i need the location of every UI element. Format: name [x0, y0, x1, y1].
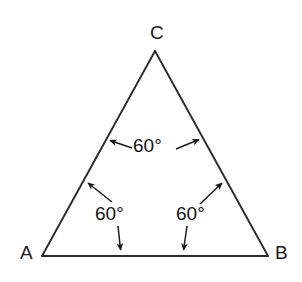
- arrow-to-side-AC: [88, 183, 112, 202]
- vertex-label-c: C: [150, 23, 164, 42]
- arrow-to-side-BC: [199, 183, 222, 205]
- side-BC: [155, 51, 268, 256]
- arrow-to-side-AB: [118, 226, 121, 250]
- arrow-to-side-BA: [184, 226, 187, 250]
- angle-label-at-a: 60°: [94, 204, 125, 223]
- angle-label-at-b: 60°: [175, 204, 206, 223]
- arrow-to-side-CB: [176, 140, 199, 150]
- angle-label-at-c: 60°: [132, 136, 163, 155]
- geometry-figure: A B C 60° 60° 60°: [0, 0, 302, 282]
- vertex-label-a: A: [20, 243, 33, 262]
- vertex-label-b: B: [275, 243, 288, 262]
